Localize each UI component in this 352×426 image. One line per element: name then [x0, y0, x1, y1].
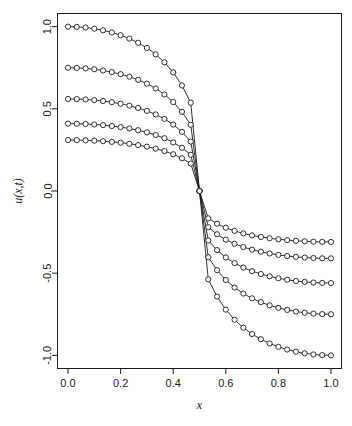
data-point-marker	[136, 105, 141, 110]
data-point-marker	[144, 144, 149, 149]
data-point-marker	[285, 277, 290, 282]
data-point-marker	[171, 70, 176, 75]
data-point-marker	[267, 236, 272, 241]
data-point-marker	[188, 100, 193, 105]
data-point-marker	[293, 349, 298, 354]
data-point-marker	[74, 138, 79, 143]
data-point-marker	[241, 231, 246, 236]
data-point-marker	[136, 128, 141, 133]
x-tick-label: 0.4	[166, 377, 181, 389]
data-point-marker	[232, 241, 237, 246]
y-tick-label: 0.5	[42, 101, 54, 116]
data-point-marker	[249, 296, 254, 301]
data-point-marker	[127, 141, 132, 146]
data-point-marker	[127, 103, 132, 108]
data-point-marker	[311, 280, 316, 285]
data-point-marker	[249, 331, 254, 336]
data-point-marker	[127, 126, 132, 131]
data-point-marker	[302, 310, 307, 315]
data-point-marker	[109, 69, 114, 74]
data-point-marker	[241, 265, 246, 270]
data-point-marker	[144, 130, 149, 135]
data-point-marker	[65, 137, 70, 142]
data-point-marker	[153, 52, 158, 57]
y-tick-label: 0.0	[42, 183, 54, 198]
data-point-marker	[302, 351, 307, 356]
chart-figure: 0.00.20.40.60.81.0-1.0-0.50.00.51.0xu(x,…	[0, 0, 352, 426]
data-point-marker	[144, 108, 149, 113]
data-point-marker	[118, 125, 123, 130]
data-point-marker	[188, 152, 193, 157]
data-point-marker	[153, 86, 158, 91]
data-point-marker	[328, 239, 333, 244]
data-point-marker	[311, 239, 316, 244]
data-point-marker	[311, 255, 316, 260]
data-point-marker	[65, 96, 70, 101]
data-point-marker	[109, 139, 114, 144]
data-point-marker	[179, 129, 184, 134]
data-point-marker	[83, 97, 88, 102]
x-tick-label: 0.8	[271, 377, 286, 389]
data-point-marker	[206, 216, 211, 221]
data-point-marker	[127, 74, 132, 79]
data-point-marker	[258, 234, 263, 239]
data-point-marker	[311, 352, 316, 357]
data-point-marker	[223, 255, 228, 260]
data-point-marker	[197, 188, 202, 193]
x-tick-label: 0.0	[60, 377, 75, 389]
data-point-marker	[311, 311, 316, 316]
data-point-marker	[241, 325, 246, 330]
data-point-marker	[144, 45, 149, 50]
data-point-marker	[258, 300, 263, 305]
data-point-marker	[179, 109, 184, 114]
data-point-marker	[267, 341, 272, 346]
data-point-marker	[171, 122, 176, 127]
x-axis-title: x	[196, 398, 203, 412]
data-point-marker	[144, 81, 149, 86]
data-point-marker	[171, 140, 176, 145]
data-point-marker	[249, 233, 254, 238]
data-point-marker	[92, 26, 97, 31]
data-point-marker	[136, 40, 141, 45]
data-point-marker	[258, 337, 263, 342]
data-point-marker	[267, 251, 272, 256]
data-point-marker	[83, 138, 88, 143]
data-point-marker	[153, 146, 158, 151]
data-point-marker	[92, 122, 97, 127]
data-point-marker	[162, 149, 167, 154]
data-point-marker	[328, 312, 333, 317]
data-point-marker	[162, 116, 167, 121]
data-point-marker	[223, 237, 228, 242]
data-point-marker	[320, 353, 325, 358]
data-point-marker	[206, 277, 211, 282]
data-point-marker	[249, 269, 254, 274]
data-point-marker	[232, 317, 237, 322]
data-point-marker	[276, 344, 281, 349]
data-point-marker	[83, 66, 88, 71]
data-point-marker	[214, 221, 219, 226]
data-point-marker	[223, 225, 228, 230]
y-tick-label: -0.5	[42, 264, 54, 283]
data-point-marker	[328, 280, 333, 285]
data-point-marker	[267, 274, 272, 279]
data-point-marker	[188, 161, 193, 166]
data-point-marker	[285, 238, 290, 243]
data-point-marker	[302, 239, 307, 244]
data-point-marker	[249, 247, 254, 252]
plot-canvas: 0.00.20.40.60.81.0-1.0-0.50.00.51.0xu(x,…	[0, 0, 352, 426]
data-point-marker	[74, 121, 79, 126]
data-point-marker	[188, 122, 193, 127]
data-point-marker	[214, 248, 219, 253]
x-tick-label: 0.2	[113, 377, 128, 389]
x-tick-label: 1.0	[323, 377, 338, 389]
data-point-marker	[302, 255, 307, 260]
data-point-marker	[83, 121, 88, 126]
data-point-marker	[109, 100, 114, 105]
data-point-marker	[258, 271, 263, 276]
data-point-marker	[179, 156, 184, 161]
data-point-marker	[241, 291, 246, 296]
data-point-marker	[232, 228, 237, 233]
y-tick-label: 1.0	[42, 19, 54, 34]
data-point-marker	[92, 98, 97, 103]
data-point-marker	[100, 28, 105, 33]
